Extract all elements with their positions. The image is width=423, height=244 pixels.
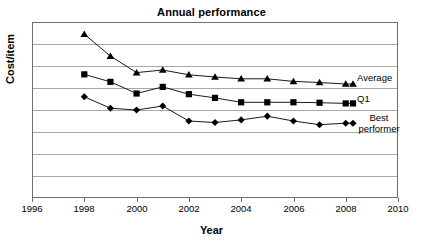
gridline: [33, 154, 397, 155]
gridline: [33, 132, 397, 133]
x-tick-label: 2000: [117, 203, 157, 214]
x-tick-1996: [32, 198, 33, 202]
x-axis-title: Year: [0, 224, 423, 236]
gridline: [33, 44, 397, 45]
series-label-best-performer: Best performer: [352, 112, 406, 134]
gridline: [33, 66, 397, 67]
x-tick-2004: [241, 198, 242, 202]
x-tick-label: 2008: [326, 203, 366, 214]
x-tick-label: 2004: [221, 203, 261, 214]
x-tick-2006: [294, 198, 295, 202]
x-tick-1998: [84, 198, 85, 202]
x-tick-2008: [346, 198, 347, 202]
x-tick-label: 2010: [378, 203, 418, 214]
y-axis-title: Cost/item: [4, 34, 16, 84]
gridline: [33, 176, 397, 177]
series-label-q1: Q1: [357, 93, 370, 104]
plot-area: [32, 22, 398, 198]
x-tick-2000: [137, 198, 138, 202]
gridline: [33, 88, 397, 89]
x-tick-2002: [189, 198, 190, 202]
x-tick-2010: [398, 198, 399, 202]
x-tick-label: 2006: [274, 203, 314, 214]
series-label-average: Average: [357, 72, 392, 83]
x-tick-label: 1996: [12, 203, 52, 214]
gridline: [33, 110, 397, 111]
x-tick-label: 1998: [64, 203, 104, 214]
chart-container: Annual performance Cost/item Year 1996 1…: [0, 0, 423, 244]
x-tick-label: 2002: [169, 203, 209, 214]
chart-title: Annual performance: [0, 6, 423, 18]
